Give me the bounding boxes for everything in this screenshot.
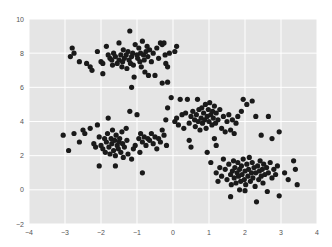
data-point — [268, 160, 273, 165]
data-point — [121, 47, 126, 52]
data-point — [183, 110, 188, 115]
y-tick-label: 8 — [20, 50, 24, 57]
data-point — [122, 145, 127, 150]
x-tick-label: −2 — [97, 229, 105, 236]
data-point — [124, 138, 129, 143]
data-point — [266, 170, 271, 175]
data-point — [129, 85, 134, 90]
data-point — [161, 40, 166, 45]
data-point — [119, 64, 124, 69]
data-point — [151, 141, 156, 146]
data-point — [152, 73, 157, 78]
data-point — [143, 143, 148, 148]
data-point — [61, 133, 66, 138]
data-point — [174, 116, 179, 121]
data-point — [68, 54, 73, 59]
data-point — [250, 160, 255, 165]
data-point — [265, 189, 270, 194]
data-point — [232, 131, 237, 136]
data-point — [77, 139, 82, 144]
data-point — [137, 150, 142, 155]
data-point — [104, 139, 109, 144]
data-point — [193, 124, 198, 129]
data-point — [105, 131, 110, 136]
data-point — [223, 167, 228, 172]
x-tick-label: 2 — [243, 229, 247, 236]
data-point — [242, 188, 247, 193]
data-point — [124, 126, 129, 131]
data-point — [127, 28, 132, 33]
data-point — [273, 172, 278, 177]
data-point — [136, 45, 141, 50]
data-point — [221, 114, 226, 119]
data-point — [239, 163, 244, 168]
data-point — [243, 182, 248, 187]
data-point — [100, 71, 105, 76]
data-point — [254, 199, 259, 204]
data-point — [217, 165, 222, 170]
data-point — [95, 49, 100, 54]
data-point — [113, 153, 118, 158]
y-tick-label: 0 — [20, 186, 24, 193]
data-point — [167, 51, 172, 56]
data-point — [163, 117, 168, 122]
data-point — [110, 127, 115, 132]
data-point — [127, 109, 132, 114]
data-point — [212, 136, 217, 141]
data-point — [156, 56, 161, 61]
data-point — [269, 136, 274, 141]
data-point — [214, 143, 219, 148]
y-tick-label: 6 — [20, 84, 24, 91]
data-point — [121, 155, 126, 160]
data-point — [204, 126, 209, 131]
data-point — [181, 126, 186, 131]
data-point — [124, 66, 129, 71]
data-point — [217, 107, 222, 112]
data-point — [293, 167, 298, 172]
x-tick-label: −4 — [25, 229, 33, 236]
data-point — [140, 39, 145, 44]
data-point — [118, 150, 123, 155]
data-point — [194, 112, 199, 117]
data-point — [97, 134, 102, 139]
data-point — [188, 145, 193, 150]
data-point — [277, 193, 282, 198]
data-point — [160, 81, 165, 86]
data-point — [172, 49, 177, 54]
scatter-chart: −4−3−2−101234 1086420−2 — [0, 0, 332, 247]
data-point — [178, 97, 183, 102]
data-point — [165, 64, 170, 69]
data-point — [116, 40, 121, 45]
data-point — [219, 174, 224, 179]
x-axis-tick-labels: −4−3−2−101234 — [25, 229, 319, 236]
data-point — [66, 148, 71, 153]
data-point — [145, 54, 150, 59]
data-point — [266, 114, 271, 119]
data-point — [215, 179, 220, 184]
data-point — [95, 122, 100, 127]
data-point — [205, 150, 210, 155]
data-point — [226, 112, 231, 117]
data-point — [253, 114, 258, 119]
data-point — [71, 131, 76, 136]
data-point — [228, 194, 233, 199]
data-point — [244, 102, 249, 107]
data-point — [151, 51, 156, 56]
data-point — [160, 127, 165, 132]
data-point — [233, 180, 238, 185]
data-point — [174, 44, 179, 49]
data-point — [195, 97, 200, 102]
data-point — [82, 131, 87, 136]
data-point — [214, 170, 219, 175]
data-point — [134, 112, 139, 117]
data-point — [260, 180, 265, 185]
data-point — [291, 158, 296, 163]
data-point — [176, 122, 181, 127]
data-point — [212, 104, 217, 109]
data-point — [185, 97, 190, 102]
data-point — [125, 151, 130, 156]
data-point — [149, 59, 154, 64]
data-point — [113, 163, 118, 168]
data-point — [207, 100, 212, 105]
data-point — [235, 114, 240, 119]
